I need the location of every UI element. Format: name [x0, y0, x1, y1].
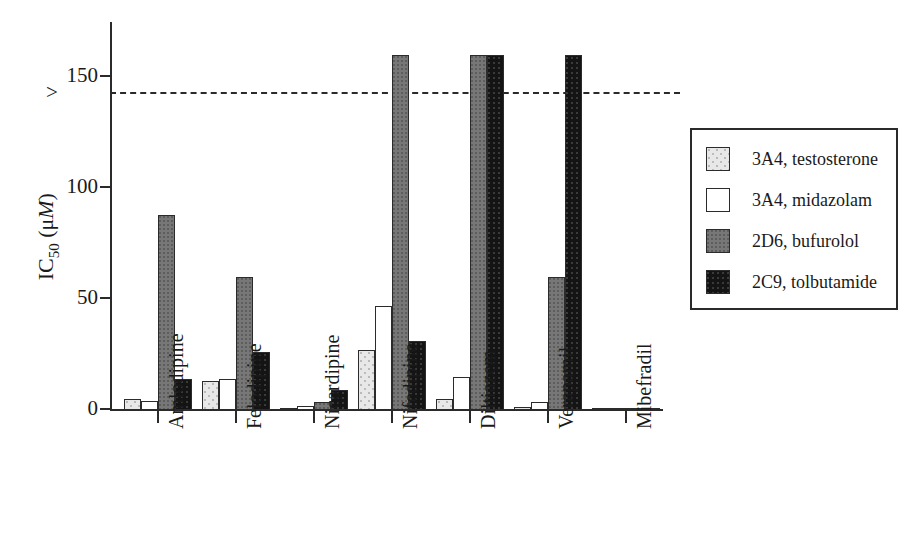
- x-tick-nicardipine: [313, 411, 315, 423]
- bar-nicardipine-atestosterone: [280, 408, 297, 411]
- y-tick-label-50: 50: [0, 287, 98, 308]
- bar-mibefradil-atestosterone: [592, 408, 609, 411]
- x-tick-amlodipine: [157, 411, 159, 423]
- x-label-felodipine: Felodipine: [244, 343, 264, 429]
- legend-swatch-icon: [706, 147, 730, 171]
- legend-swatch-icon: [706, 270, 730, 294]
- legend-swatch-icon: [706, 188, 730, 212]
- bar-nifedipine-atestosterone: [358, 350, 375, 410]
- x-label-nifedipine: Nifedipine: [400, 343, 420, 429]
- x-label-amlodipine: Amlodipine: [166, 333, 186, 429]
- x-label-nicardipine: Nicardipine: [322, 335, 342, 429]
- y-tick-50: [100, 297, 111, 299]
- x-label-verapamil: Verapamil: [556, 347, 576, 429]
- y-axis-title-text: IC50 (μM): [33, 193, 58, 280]
- y-tick-100: [100, 186, 111, 188]
- x-tick-felodipine: [235, 411, 237, 423]
- legend: 3A4, testosterone3A4, midazolam2D6, bufu…: [690, 128, 898, 310]
- legend-label: 3A4, midazolam: [752, 191, 872, 209]
- y-tick-label-0: 0: [0, 398, 98, 419]
- bar-diltiazem-atestosterone: [436, 399, 453, 410]
- x-tick-verapamil: [547, 411, 549, 423]
- y-axis-title: IC50 (μM): [33, 127, 62, 347]
- bar-chart: IC50 (μM) > 050100150 AmlodipineFelodipi…: [0, 0, 909, 557]
- bar-felodipine-amidazolam: [219, 379, 236, 410]
- y-tick-0: [100, 408, 111, 410]
- legend-label: 2D6, bufurolol: [752, 232, 859, 250]
- bar-verapamil-amidazolam: [531, 402, 548, 410]
- bar-nifedipine-amidazolam: [375, 306, 392, 410]
- bar-mibefradil-amidazolam: [609, 408, 626, 411]
- plot-area: [112, 22, 663, 410]
- legend-item-atestosterone[interactable]: 3A4, testosterone: [706, 146, 878, 172]
- legend-swatch-icon: [706, 229, 730, 253]
- y-tick-label-100: 100: [0, 176, 98, 197]
- bar-felodipine-atestosterone: [202, 381, 219, 410]
- legend-item-amidazolam[interactable]: 3A4, midazolam: [706, 187, 872, 213]
- x-tick-mibefradil: [625, 411, 627, 423]
- bar-verapamil-atestosterone: [514, 407, 531, 410]
- bar-amlodipine-amidazolam: [141, 401, 158, 410]
- y-tick-150: [100, 75, 111, 77]
- x-tick-nifedipine: [391, 411, 393, 423]
- x-label-mibefradil: Mibefradil: [634, 343, 654, 429]
- bar-nicardipine-amidazolam: [297, 406, 314, 410]
- y-tick-label-150: 150: [0, 65, 98, 86]
- bar-amlodipine-atestosterone: [124, 399, 141, 410]
- legend-label: 2C9, tolbutamide: [752, 273, 877, 291]
- legend-item-ctolbutamide[interactable]: 2C9, tolbutamide: [706, 269, 877, 295]
- x-tick-diltiazem: [469, 411, 471, 423]
- legend-label: 3A4, testosterone: [752, 150, 878, 168]
- bar-diltiazem-amidazolam: [453, 377, 470, 410]
- legend-item-dbufurolol[interactable]: 2D6, bufurolol: [706, 228, 859, 254]
- x-label-diltiazem: Diltiazem: [478, 350, 498, 429]
